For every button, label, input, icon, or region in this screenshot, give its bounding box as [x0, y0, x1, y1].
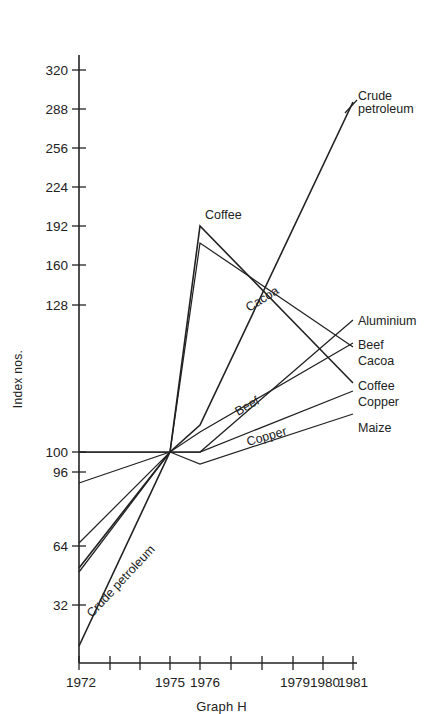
- series-label-beef: Beef: [358, 338, 384, 352]
- y-axis-title: Index nos.: [11, 329, 25, 429]
- y-axis-tick-labels: 320 288 256 224 192 160 128 100 96 64 32: [45, 63, 68, 613]
- series-line-aluminium: [79, 320, 353, 543]
- series-lines: [79, 102, 353, 646]
- y-tick-label: 100: [45, 445, 68, 460]
- y-tick-label: 96: [53, 465, 68, 480]
- y-tick-label: 288: [45, 102, 68, 117]
- series-label-maize: Maize: [358, 421, 391, 435]
- y-tick-label: 32: [53, 598, 68, 613]
- series-line-copper: [79, 391, 353, 452]
- x-tick-label: 1976: [190, 675, 220, 690]
- leader-line-crude-petroleum: [345, 100, 357, 113]
- x-tick-label: 1981: [338, 675, 368, 690]
- series-label-crude-petroleum-line2: petroleum: [358, 102, 414, 116]
- x-tick-label: 1980: [310, 675, 340, 690]
- y-tick-label: 64: [53, 539, 69, 554]
- y-tick-label: 192: [45, 219, 68, 234]
- x-axis-tick-labels: 1972 1975 1976 1979 1980 1981: [66, 675, 368, 690]
- y-tick-label: 224: [45, 180, 68, 195]
- inline-label-coffee: Coffee: [205, 208, 242, 222]
- series-line-coffee: [79, 226, 353, 568]
- y-tick-label: 128: [45, 298, 68, 313]
- series-label-coffee: Coffee: [358, 379, 395, 393]
- series-label-cacoa: Cacoa: [358, 354, 394, 368]
- series-line-crude-petroleum: [79, 102, 353, 646]
- series-inline-labels: Coffee Cacoa Beef Copper Crude petroleum: [84, 208, 288, 620]
- series-label-crude-petroleum: Crude: [358, 89, 392, 103]
- x-tick-label: 1972: [66, 675, 96, 690]
- inline-label-beef: Beef: [233, 393, 263, 418]
- x-tick-label: 1975: [155, 675, 185, 690]
- y-tick-label: 256: [45, 141, 68, 156]
- y-tick-label: 160: [45, 258, 68, 273]
- series-end-labels: Crude petroleum Aluminium Beef Cacoa Cof…: [358, 89, 416, 435]
- label-leader-lines: [345, 100, 357, 113]
- series-label-aluminium: Aluminium: [358, 314, 416, 328]
- x-tick-label: 1979: [280, 675, 310, 690]
- series-label-copper: Copper: [358, 395, 399, 409]
- inline-label-copper: Copper: [245, 424, 288, 449]
- y-tick-label: 320: [45, 63, 68, 78]
- inline-label-cacoa: Cacoa: [243, 283, 281, 314]
- inline-label-crude-petroleum: Crude petroleum: [84, 542, 158, 620]
- series-line-beef: [79, 343, 353, 483]
- chart-caption: Graph H: [0, 699, 443, 714]
